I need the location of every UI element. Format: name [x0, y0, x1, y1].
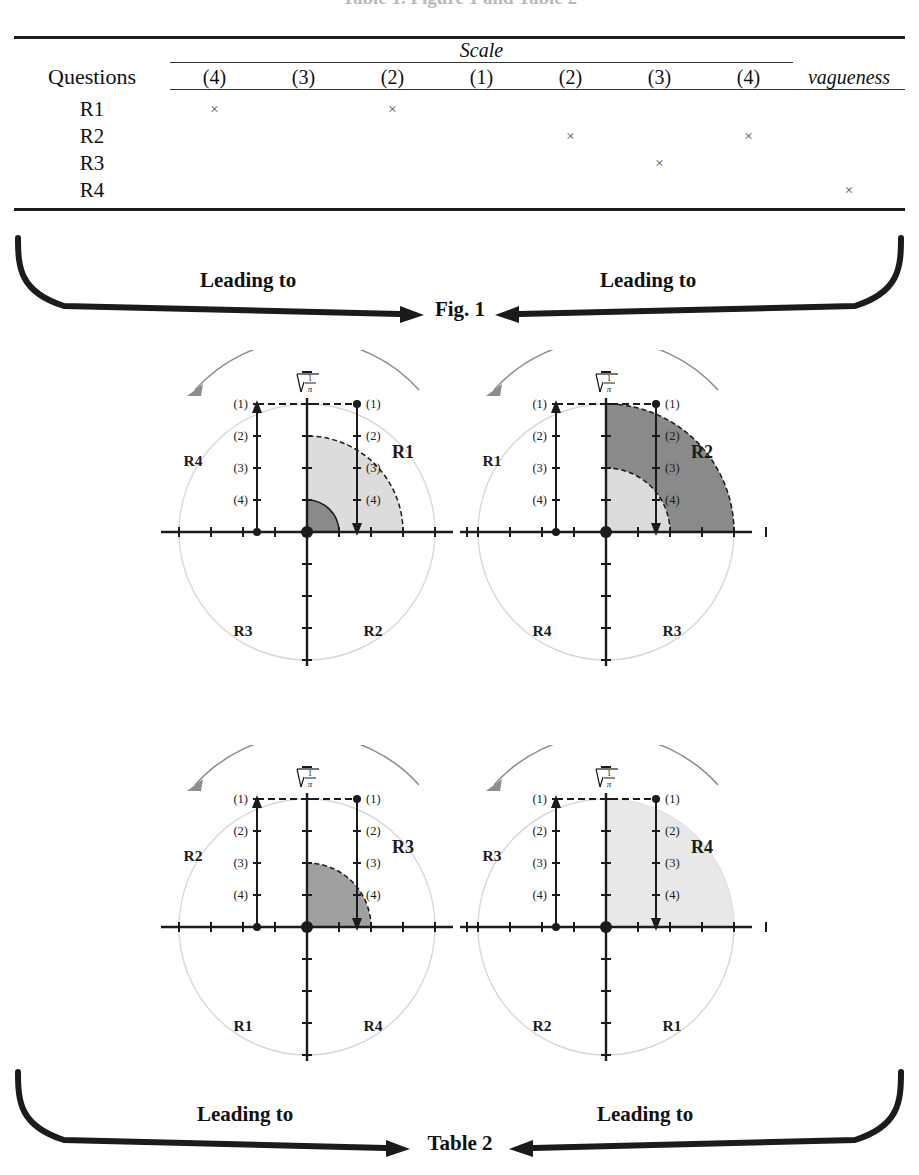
radical-hook-stroke [600, 382, 603, 392]
table-row: R3× [14, 150, 905, 177]
arrowhead-left-icon [509, 1140, 533, 1157]
shaded-region-r3-1 [307, 863, 371, 927]
arrowhead-left-icon [495, 306, 519, 323]
left-level-label-4: (4) [233, 888, 248, 902]
radical-sign-stroke [596, 374, 600, 392]
questions-header: Questions [14, 38, 170, 90]
col-head-3b: (3) [615, 63, 704, 90]
scale-vagueness-table: Questions Scale (4) (3) (2) (1) (2) (3) … [14, 36, 905, 211]
diagram-svg-r1: (1)(1)(2)(2)(3)(3)(4)(4)1πR1R4R3R2 [157, 350, 487, 680]
scale-header: Scale [170, 38, 793, 63]
main-region-label-r3: R3 [392, 837, 414, 857]
radical-sign-stroke [297, 374, 301, 392]
rotation-arrowhead-icon [486, 779, 502, 791]
left-level-label-1: (1) [233, 397, 248, 411]
left-level-label-2: (2) [532, 824, 547, 838]
col-head-4a: (4) [170, 63, 259, 90]
left-level-label-4: (4) [532, 888, 547, 902]
radical-sign-stroke [596, 769, 600, 787]
cell-r4-c7 [704, 177, 793, 204]
right-level-label-3: (3) [366, 856, 381, 870]
origin-dot [301, 526, 313, 538]
left-level-label-2: (2) [233, 429, 248, 443]
right-level-label-1: (1) [665, 792, 680, 806]
quadrant-label-q2: R2 [184, 847, 203, 864]
diagram-r2: (1)(1)(2)(2)(3)(3)(4)(4)1πR2R1R4R3 [456, 350, 786, 680]
cell-r3-c4 [437, 150, 526, 177]
left-level-label-4: (4) [532, 493, 547, 507]
left-aux-base-dot [552, 528, 560, 536]
radical-sign-stroke [297, 769, 301, 787]
origin-dot [600, 921, 612, 933]
right-level-label-1: (1) [366, 397, 381, 411]
cell-r1-c1: × [170, 96, 259, 123]
right-level-label-1: (1) [665, 397, 680, 411]
row-label-r4: R4 [14, 177, 170, 204]
left-level-label-3: (3) [532, 461, 547, 475]
quadrant-label-q2: R1 [483, 452, 502, 469]
radical-denominator: π [607, 779, 612, 789]
col-head-vagueness: vagueness [793, 63, 905, 90]
left-level-label-3: (3) [233, 856, 248, 870]
right-level-label-3: (3) [366, 461, 381, 475]
cell-r2-c4 [437, 123, 526, 150]
diagram-r4: (1)(1)(2)(2)(3)(3)(4)(4)1πR4R3R2R1 [456, 745, 786, 1075]
right-level-label-2: (2) [665, 429, 680, 443]
diagram-r3: (1)(1)(2)(2)(3)(3)(4)(4)1πR3R2R1R4 [157, 745, 487, 1075]
cell-r2-c6 [615, 123, 704, 150]
left-level-label-4: (4) [233, 493, 248, 507]
left-aux-arrowhead-up-icon [551, 795, 561, 808]
cell-r3-c5 [526, 150, 615, 177]
right-level-label-4: (4) [366, 493, 381, 507]
cell-r1-c5 [526, 96, 615, 123]
diagram-svg-r3: (1)(1)(2)(2)(3)(3)(4)(4)1πR3R2R1R4 [157, 745, 487, 1075]
right-level-label-2: (2) [366, 824, 381, 838]
quadrant-label-q4: R3 [663, 622, 682, 639]
arrowhead-right-icon [386, 1140, 410, 1157]
scale-header-gap [793, 38, 905, 63]
quadrant-label-q3: R4 [533, 622, 552, 639]
col-head-2a: (2) [348, 63, 437, 90]
table2-target-label: Table 2 [410, 1131, 510, 1156]
cell-r2-vagueness [793, 123, 905, 150]
left-aux-arrowhead-up-icon [252, 795, 262, 808]
table-bottom-rule [14, 204, 905, 210]
main-region-label-r4: R4 [691, 837, 713, 857]
cell-r4-c2 [259, 177, 348, 204]
leading-to-right-label: Leading to [597, 1102, 693, 1127]
cutoff-title-text: Table 1. Figure 1 and Table 2 [0, 0, 919, 5]
main-region-label-r2: R2 [691, 442, 713, 462]
quadrant-label-q3: R2 [533, 1017, 552, 1034]
brace-right-stroke [519, 238, 901, 314]
cell-r1-c3: × [348, 96, 437, 123]
left-level-label-1: (1) [532, 397, 547, 411]
quadrant-label-q3: R3 [234, 622, 253, 639]
cell-r3-c2 [259, 150, 348, 177]
radical-denominator: π [308, 779, 313, 789]
right-level-label-4: (4) [665, 888, 680, 902]
radical-hook-stroke [600, 777, 603, 787]
right-level-label-2: (2) [665, 824, 680, 838]
col-head-3a: (3) [259, 63, 348, 90]
table-header-scale-row: Questions Scale [14, 38, 905, 63]
cell-r4-c5 [526, 177, 615, 204]
leading-to-right-label: Leading to [600, 268, 696, 293]
right-level-label-3: (3) [665, 856, 680, 870]
cell-r2-c5: × [526, 123, 615, 150]
cell-r1-c7 [704, 96, 793, 123]
cell-r3-c1 [170, 150, 259, 177]
quadrant-label-q2: R4 [184, 452, 203, 469]
col-head-4b: (4) [704, 63, 793, 90]
left-aux-base-dot [253, 923, 261, 931]
radical-numerator: 1 [607, 768, 612, 778]
cell-r1-c2 [259, 96, 348, 123]
left-level-label-3: (3) [233, 461, 248, 475]
cell-r2-c3 [348, 123, 437, 150]
cell-r3-vagueness [793, 150, 905, 177]
cell-r2-c7: × [704, 123, 793, 150]
cell-r3-c3 [348, 150, 437, 177]
right-level-label-4: (4) [366, 888, 381, 902]
origin-dot [600, 526, 612, 538]
connector-to-table2: Leading to Leading to Table 2 [0, 1068, 919, 1164]
left-level-label-1: (1) [233, 792, 248, 806]
